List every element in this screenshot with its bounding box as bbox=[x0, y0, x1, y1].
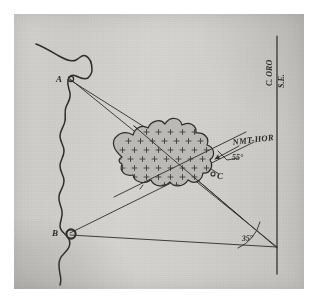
survey-diagram: A B C NMT-HOR 55° 35° C. ORO S.E. bbox=[14, 14, 304, 289]
point-c-label: C bbox=[217, 171, 224, 181]
point-c-marker bbox=[211, 172, 215, 176]
point-b-label: B bbox=[51, 228, 58, 238]
paper-sheet: A B C NMT-HOR 55° 35° C. ORO S.E. bbox=[14, 14, 304, 289]
hatched-shoal-area bbox=[113, 118, 215, 187]
meridian-sub-label: S.E. bbox=[277, 74, 286, 88]
meridian-top-label: C. ORO bbox=[265, 60, 274, 86]
angle-arcs bbox=[218, 151, 260, 248]
coastline bbox=[36, 44, 92, 285]
angle-55-label: 55° bbox=[232, 153, 244, 162]
scanned-page: A B C NMT-HOR 55° 35° C. ORO S.E. bbox=[0, 0, 314, 298]
shoal-note-label: NMT-HOR bbox=[231, 132, 274, 147]
point-b-marker bbox=[66, 229, 75, 238]
ray-tick-mark bbox=[140, 185, 143, 189]
point-a-label: A bbox=[55, 74, 62, 84]
angle-35-label: 35° bbox=[241, 233, 255, 243]
